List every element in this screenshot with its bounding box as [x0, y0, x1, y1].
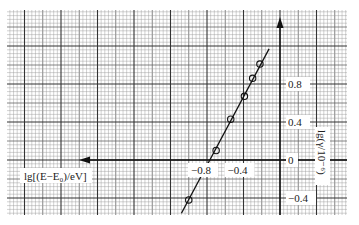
x-tick-label: −0.8 — [191, 164, 211, 176]
y-tick-label: 0.4 — [288, 116, 302, 128]
graph-paper-chart: lg[(E−E₀)/eV] lg(γ/10⁻⁶) −0.8−0.4 0.80.4… — [0, 0, 359, 225]
x-axis-title: lg[(E−E₀)/eV] — [20, 168, 92, 183]
x-axis-arrow-icon — [79, 157, 90, 164]
y-tick-label: −0.4 — [288, 192, 308, 204]
y-axis-title-text: lg(γ/10⁻⁶) — [315, 130, 328, 175]
minor-grid — [7, 10, 347, 215]
major-grid — [7, 10, 347, 215]
y-tick-label: 0 — [288, 154, 294, 166]
x-axis-title-text: lg[(E−E₀)/eV] — [24, 170, 87, 183]
y-axis-title: lg(γ/10⁻⁶) — [315, 127, 330, 185]
y-tick-label: 0.8 — [288, 78, 302, 90]
y-axis-arrow-icon — [277, 17, 284, 28]
x-tick-label: −0.4 — [228, 164, 248, 176]
